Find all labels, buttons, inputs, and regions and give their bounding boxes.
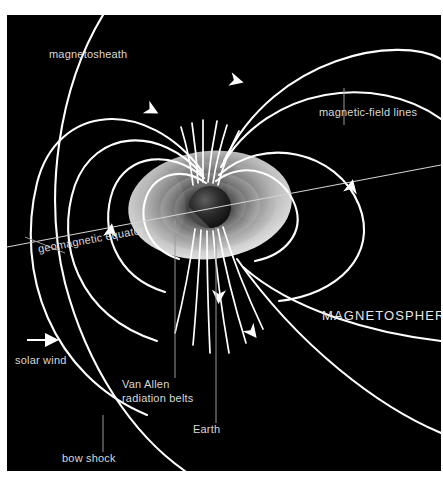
- magnetosphere-figure: magnetosheath magnetic-field lines geoma…: [0, 0, 443, 480]
- arrowhead-upper-center: [228, 72, 245, 89]
- arrowhead-south-polar: [212, 290, 226, 304]
- earth-sphere: [189, 186, 231, 228]
- field-line-right-4: [224, 50, 441, 161]
- arrowhead-upper-left: [143, 101, 162, 120]
- magnetosphere-svg: [7, 15, 441, 471]
- diagram-panel: magnetosheath magnetic-field lines geoma…: [7, 15, 441, 471]
